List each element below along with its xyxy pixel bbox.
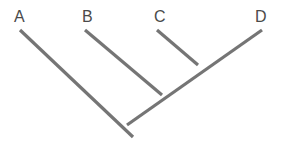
cladogram-canvas: [0, 0, 283, 148]
branch-b: [85, 30, 162, 95]
cladogram-diagram: A B C D: [0, 0, 283, 148]
taxon-label-a: A: [14, 9, 25, 25]
taxon-label-d: D: [255, 9, 267, 25]
branch-a: [20, 30, 133, 137]
branch-c: [157, 30, 198, 65]
branch-d-spine: [127, 30, 262, 125]
taxon-label-b: B: [82, 9, 93, 25]
taxon-label-c: C: [154, 9, 166, 25]
